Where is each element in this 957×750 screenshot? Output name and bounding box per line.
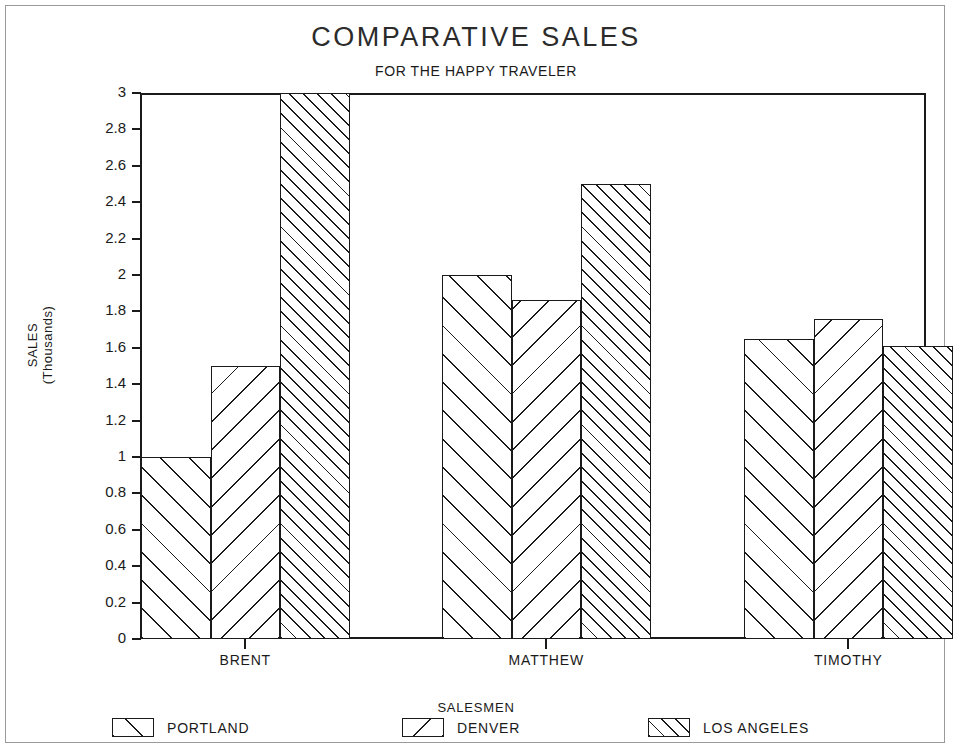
y-axis-tick bbox=[132, 529, 141, 531]
y-axis-tick bbox=[132, 638, 141, 640]
legend-label-portland: PORTLAND bbox=[167, 720, 249, 736]
y-axis-tick-label: 2 bbox=[6, 265, 126, 282]
legend-item-portland: PORTLAND bbox=[112, 718, 249, 737]
y-axis-tick-label: 0.4 bbox=[6, 556, 126, 573]
y-axis-tick bbox=[132, 92, 141, 94]
x-axis-label-timothy: TIMOTHY bbox=[738, 652, 957, 668]
y-axis-tick bbox=[132, 565, 141, 567]
legend-swatch-los-angeles bbox=[648, 718, 690, 737]
legend-swatch-denver bbox=[402, 718, 444, 737]
x-axis-tick bbox=[847, 639, 849, 649]
bar-matthew-los-angeles bbox=[581, 184, 651, 639]
chart-legend: PORTLANDDENVERLOS ANGELES bbox=[0, 718, 952, 748]
y-axis-tick-label: 2.2 bbox=[6, 229, 126, 246]
x-axis-tick bbox=[545, 639, 547, 649]
y-axis-tick-label: 2.4 bbox=[6, 192, 126, 209]
bar-timothy-denver bbox=[814, 319, 884, 639]
y-axis-tick bbox=[132, 383, 141, 385]
y-axis-tick-label: 1.8 bbox=[6, 301, 126, 318]
y-axis-tick bbox=[132, 274, 141, 276]
y-axis-tick bbox=[132, 456, 141, 458]
y-axis-tick bbox=[132, 310, 141, 312]
y-axis-tick bbox=[132, 347, 141, 349]
bar-timothy-los-angeles bbox=[883, 346, 953, 639]
y-axis-tick bbox=[132, 420, 141, 422]
y-axis-tick-label: 1.2 bbox=[6, 411, 126, 428]
bar-brent-los-angeles bbox=[280, 93, 350, 639]
bar-brent-denver bbox=[211, 366, 281, 639]
y-axis-tick-label: 0.6 bbox=[6, 520, 126, 537]
y-axis-tick bbox=[132, 602, 141, 604]
y-axis-tick-label: 0.8 bbox=[6, 483, 126, 500]
chart-title: COMPARATIVE SALES bbox=[0, 22, 952, 53]
legend-swatch-portland bbox=[112, 718, 154, 737]
y-axis-tick-label: 1.4 bbox=[6, 374, 126, 391]
y-axis-tick bbox=[132, 201, 141, 203]
y-axis-tick-label: 0 bbox=[6, 629, 126, 646]
x-axis-tick bbox=[244, 639, 246, 649]
legend-item-denver: DENVER bbox=[402, 718, 520, 737]
legend-label-denver: DENVER bbox=[457, 720, 520, 736]
y-axis-tick-label: 3 bbox=[6, 83, 126, 100]
y-axis-tick-label: 1 bbox=[6, 447, 126, 464]
y-axis-tick-label: 1.6 bbox=[6, 338, 126, 355]
legend-item-los-angeles: LOS ANGELES bbox=[648, 718, 809, 737]
y-axis-tick bbox=[132, 492, 141, 494]
x-axis-label-matthew: MATTHEW bbox=[436, 652, 656, 668]
plot-area bbox=[141, 93, 925, 639]
bar-brent-portland bbox=[141, 457, 211, 639]
x-axis-label-brent: BRENT bbox=[135, 652, 355, 668]
y-axis-tick-label: 2.6 bbox=[6, 156, 126, 173]
y-axis-tick-label: 2.8 bbox=[6, 119, 126, 136]
bar-matthew-portland bbox=[442, 275, 512, 639]
y-axis-tick bbox=[132, 165, 141, 167]
bar-matthew-denver bbox=[512, 300, 582, 639]
y-axis-tick-label: 0.2 bbox=[6, 593, 126, 610]
legend-label-los-angeles: LOS ANGELES bbox=[703, 720, 809, 736]
y-axis-tick bbox=[132, 128, 141, 130]
x-axis-title: SALESMEN bbox=[0, 700, 952, 715]
y-axis-tick bbox=[132, 238, 141, 240]
chart-subtitle: FOR THE HAPPY TRAVELER bbox=[0, 63, 952, 79]
bar-timothy-portland bbox=[744, 339, 814, 639]
